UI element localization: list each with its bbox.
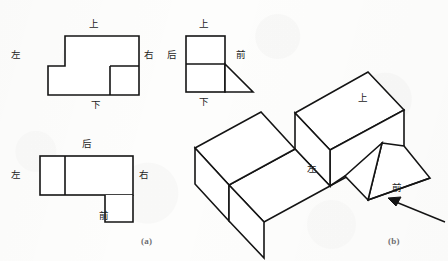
bottom-view-main-rect	[40, 156, 133, 195]
bottom-view-label-top: 后	[82, 139, 92, 149]
iso-label-front-face: 前	[392, 183, 402, 193]
side-view-label-right: 前	[236, 50, 246, 60]
side-view-group	[186, 36, 253, 92]
figure-canvas: 上 左 右 下 上 后 前 下 后 左 右 前 上 左 前 (a) (b)	[0, 0, 448, 261]
bottom-view-label-right: 右	[139, 170, 149, 180]
top-view-group	[48, 36, 139, 95]
iso-label-top-face: 上	[358, 93, 368, 103]
isometric-view-group	[195, 72, 445, 258]
bottom-view-group	[40, 156, 133, 222]
top-view-label-left: 左	[11, 50, 21, 60]
side-view-label-left: 后	[167, 50, 177, 60]
view-direction-arrow	[388, 197, 445, 222]
engineering-drawing	[0, 0, 448, 261]
bottom-view-label-bottom: 前	[99, 211, 109, 221]
side-view-triangle	[225, 64, 253, 92]
caption-b: (b)	[388, 236, 400, 246]
iso-label-left-face: 左	[307, 164, 317, 174]
bottom-view-tab	[105, 195, 133, 222]
side-view-label-top: 上	[199, 19, 209, 29]
top-view-label-bottom: 下	[91, 100, 101, 110]
caption-a: (a)	[141, 236, 152, 246]
top-view-label-top: 上	[89, 19, 99, 29]
bottom-view-label-left: 左	[11, 170, 21, 180]
side-view-label-bottom: 下	[199, 97, 209, 107]
top-view-label-right: 右	[144, 50, 154, 60]
